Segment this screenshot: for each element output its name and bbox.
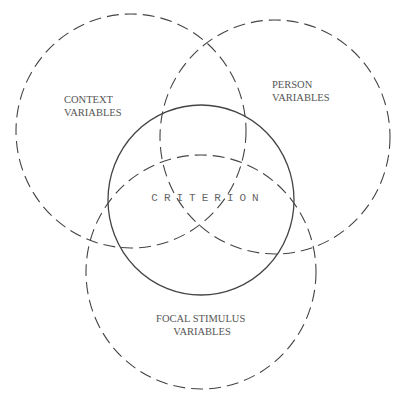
context-label: CONTEXT VARIABLES <box>64 94 122 118</box>
venn-diagram: CONTEXT VARIABLES PERSON VARIABLES FOCAL… <box>0 0 404 401</box>
criterion-label: CRITERION <box>151 192 264 204</box>
person-variables-circle <box>160 20 390 254</box>
person-label: PERSON VARIABLES <box>272 79 330 103</box>
focal-stimulus-label: FOCAL STIMULUS VARIABLES <box>156 313 248 337</box>
context-variables-circle <box>16 14 246 248</box>
focal-stimulus-variables-circle <box>86 155 316 389</box>
